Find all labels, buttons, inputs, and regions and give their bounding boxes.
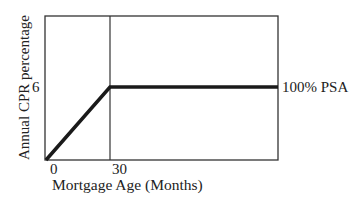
x-axis-label: Mortgage Age (Months) <box>52 177 203 193</box>
y-tick-6: 6 <box>32 80 40 95</box>
x-tick-0: 0 <box>50 162 58 177</box>
y-axis-label: Annual CPR percentage <box>17 15 32 160</box>
x-tick-30: 30 <box>112 162 127 177</box>
series-label-100-psa: 100% PSA <box>282 80 348 95</box>
psa-curve <box>46 87 278 160</box>
